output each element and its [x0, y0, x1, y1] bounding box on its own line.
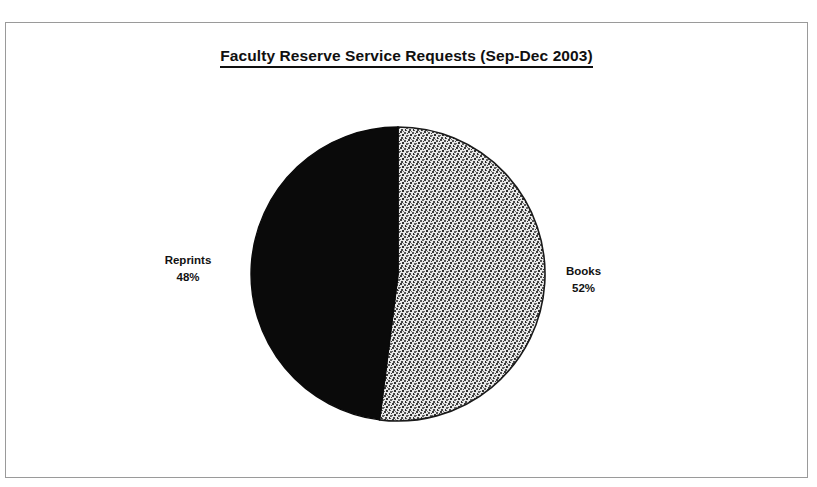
- pie-label-reprints-name: Reprints: [165, 254, 212, 266]
- pie-label-books-percent: 52%: [526, 280, 641, 297]
- pie-label-books-name: Books: [566, 265, 601, 277]
- chart-frame: Faculty Reserve Service Requests (Sep-De…: [5, 22, 808, 478]
- pie-slice-books[interactable]: [380, 127, 545, 421]
- pie-label-reprints-percent: 48%: [128, 269, 248, 286]
- pie-slice-reprints[interactable]: [251, 127, 398, 420]
- pie-graphic: [248, 123, 548, 425]
- pie-label-reprints: Reprints 48%: [128, 252, 248, 286]
- pie-chart: Reprints 48% Books 52%: [6, 23, 809, 479]
- pie-label-books: Books 52%: [526, 263, 641, 297]
